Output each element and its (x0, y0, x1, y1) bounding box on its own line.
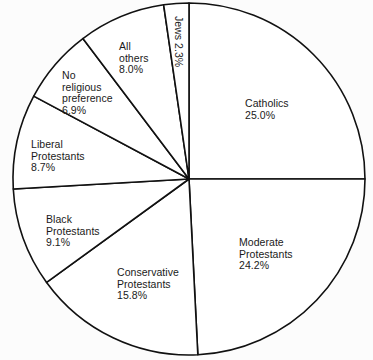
pie-slice-label-value: 6.9% (62, 105, 113, 117)
pie-slice-label-name: No religious preference (62, 69, 113, 104)
pie-slice-label: No religious preference6.9% (62, 70, 113, 116)
pie-slice-label: Conservative Protestants15.8% (117, 267, 179, 302)
pie-slice-label: Catholics25.0% (245, 98, 289, 121)
pie-slice-label-name: Catholics (245, 97, 289, 109)
pie-slice-label-name: Black Protestants (46, 213, 100, 237)
pie-slice-label: All others8.0% (119, 41, 148, 76)
pie-slice-label-value: 8.0% (119, 64, 148, 76)
pie-slice (189, 3, 365, 179)
pie-slice-label: Jews 2.3% (172, 16, 184, 67)
pie-chart: Catholics25.0%Moderate Protestants24.2%C… (0, 0, 373, 360)
pie-slice-label-name: Conservative Protestants (117, 266, 179, 290)
pie-slice-label-value: 15.8% (117, 290, 179, 302)
pie-chart-canvas (0, 0, 373, 360)
pie-slice-label-value: 24.2% (239, 260, 293, 272)
pie-slice-label: Liberal Protestants8.7% (31, 139, 85, 174)
pie-slice-label-name: All others (119, 40, 148, 64)
pie-slice-label: Black Protestants9.1% (46, 214, 100, 249)
pie-slice-label-value: 9.1% (46, 237, 100, 249)
pie-slice-label-name: Moderate Protestants (239, 236, 293, 260)
pie-slice-label-name: Liberal Protestants (31, 138, 85, 162)
pie-slice-label: Moderate Protestants24.2% (239, 237, 293, 272)
pie-slice-label-value: 25.0% (245, 110, 289, 122)
pie-slice-label-value: 8.7% (31, 162, 85, 174)
